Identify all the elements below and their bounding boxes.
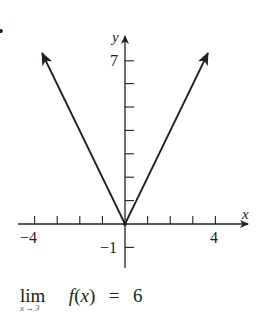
function-variable: x [80, 285, 88, 306]
close-paren: ) [89, 285, 95, 306]
limit-statement: lim x→3 f(x) = 6 [20, 286, 142, 308]
graph-plot [0, 0, 260, 280]
y-tick-label-neg1: −1 [100, 240, 117, 256]
x-axis-label: x [242, 207, 249, 222]
vertex-point [123, 222, 127, 226]
x-tick-label-4: 4 [210, 230, 218, 246]
y-axis-label: y [112, 30, 119, 45]
lim-subscript: x→3 [20, 304, 41, 313]
limit-value: 6 [133, 285, 143, 306]
y-tick-label-7: 7 [110, 53, 118, 69]
x-tick-label-neg4: −4 [20, 230, 37, 246]
graph-right-branch [125, 53, 208, 224]
equals-sign: = [109, 285, 120, 306]
graph-left-branch [42, 53, 125, 224]
